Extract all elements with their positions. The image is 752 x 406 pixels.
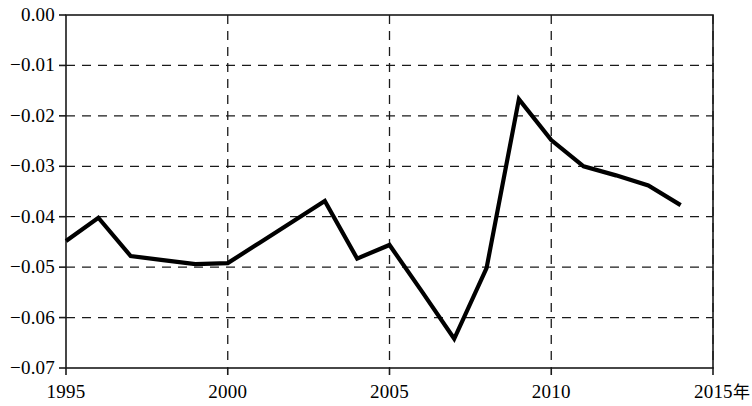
x-axis-ticks <box>66 368 713 375</box>
y-axis-ticks <box>59 15 66 368</box>
data-series-group <box>66 99 681 339</box>
data-line-series-1 <box>66 99 681 339</box>
y-axis-tick-label: −0.05 <box>10 257 55 276</box>
line-chart-plot <box>0 0 752 406</box>
x-axis-tick-label: 2005 <box>345 382 435 401</box>
x-axis-unit-label: 年 <box>733 382 750 402</box>
vertical-gridlines <box>228 15 713 368</box>
chart-container: 0.00−0.01−0.02−0.03−0.04−0.05−0.06−0.07 … <box>0 0 752 406</box>
x-axis-tick-label: 1995 <box>21 382 111 401</box>
y-axis-tick-label: −0.02 <box>10 106 55 125</box>
y-axis-tick-label: −0.01 <box>10 55 55 74</box>
y-axis-tick-label: 0.00 <box>21 5 55 24</box>
y-axis-tick-label: −0.04 <box>10 207 55 226</box>
x-axis-tick-label: 2015年 <box>677 382 752 402</box>
y-axis-tick-label: −0.07 <box>10 358 55 377</box>
x-axis-tick-label: 2010 <box>506 382 596 401</box>
y-axis-tick-label: −0.06 <box>10 308 55 327</box>
y-axis-tick-label: −0.03 <box>10 156 55 175</box>
x-axis-tick-label: 2000 <box>183 382 273 401</box>
